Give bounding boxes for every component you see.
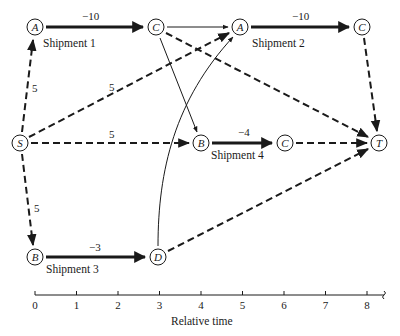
edge-s-b3-weight: 5 — [34, 202, 40, 214]
svg-text:A: A — [236, 21, 244, 33]
svg-text:C: C — [358, 21, 366, 33]
edge-d3-to-t — [168, 149, 368, 251]
shipment-3-label: Shipment 3 — [46, 263, 99, 276]
edge-s-a2-weight: 5 — [109, 81, 115, 93]
svg-text:B: B — [32, 251, 39, 263]
shipment-3-weight: −3 — [89, 241, 101, 253]
shipment-1-weight: −10 — [82, 10, 100, 22]
tick-label-5: 5 — [240, 299, 246, 311]
node-b-shipment-3: B — [27, 249, 43, 265]
node-a-shipment-2: A — [232, 19, 248, 35]
edge-c1-to-b4 — [160, 38, 197, 132]
edge-s-b4-weight: 5 — [109, 128, 115, 140]
node-source-s: S — [12, 135, 28, 151]
node-a-shipment-1: A — [27, 19, 43, 35]
svg-text:D: D — [153, 251, 162, 263]
tick-label-8: 8 — [364, 299, 370, 311]
svg-text:T: T — [376, 137, 383, 149]
node-b-shipment-4: B — [193, 135, 209, 151]
shipment-4-weight: −4 — [238, 126, 250, 138]
tick-label-3: 3 — [157, 299, 163, 311]
network-diagram: −10 −10 −3 −4 5 5 5 5 Shipment 1 Shipmen… — [0, 0, 400, 336]
shipment-2-label: Shipment 2 — [252, 37, 305, 50]
node-d-shipment-3: D — [150, 249, 166, 265]
node-c-shipment-4: C — [277, 135, 293, 151]
shipment-1-label: Shipment 1 — [43, 37, 96, 50]
tick-label-4: 4 — [198, 299, 204, 311]
tick-label-2: 2 — [115, 299, 121, 311]
svg-text:B: B — [198, 137, 205, 149]
axis-title: Relative time — [171, 315, 233, 327]
tick-label-0: 0 — [32, 299, 38, 311]
node-c-shipment-1: C — [148, 19, 164, 35]
shipment-2-weight: −10 — [292, 10, 310, 22]
node-c-shipment-2: C — [354, 19, 370, 35]
time-axis: 0 1 2 3 4 5 6 7 8 Relative time — [32, 291, 385, 327]
edge-c2-to-t — [364, 38, 377, 131]
tick-label-1: 1 — [74, 299, 80, 311]
node-sink-t: T — [371, 135, 387, 151]
svg-text:S: S — [17, 137, 23, 149]
tick-label-6: 6 — [281, 299, 287, 311]
edge-s-to-b3 — [22, 154, 33, 245]
svg-text:A: A — [31, 21, 39, 33]
edge-s-a1-weight: 5 — [32, 82, 38, 94]
tick-label-7: 7 — [323, 299, 329, 311]
svg-text:C: C — [281, 137, 289, 149]
svg-text:C: C — [152, 21, 160, 33]
shipment-4-label: Shipment 4 — [211, 149, 264, 162]
